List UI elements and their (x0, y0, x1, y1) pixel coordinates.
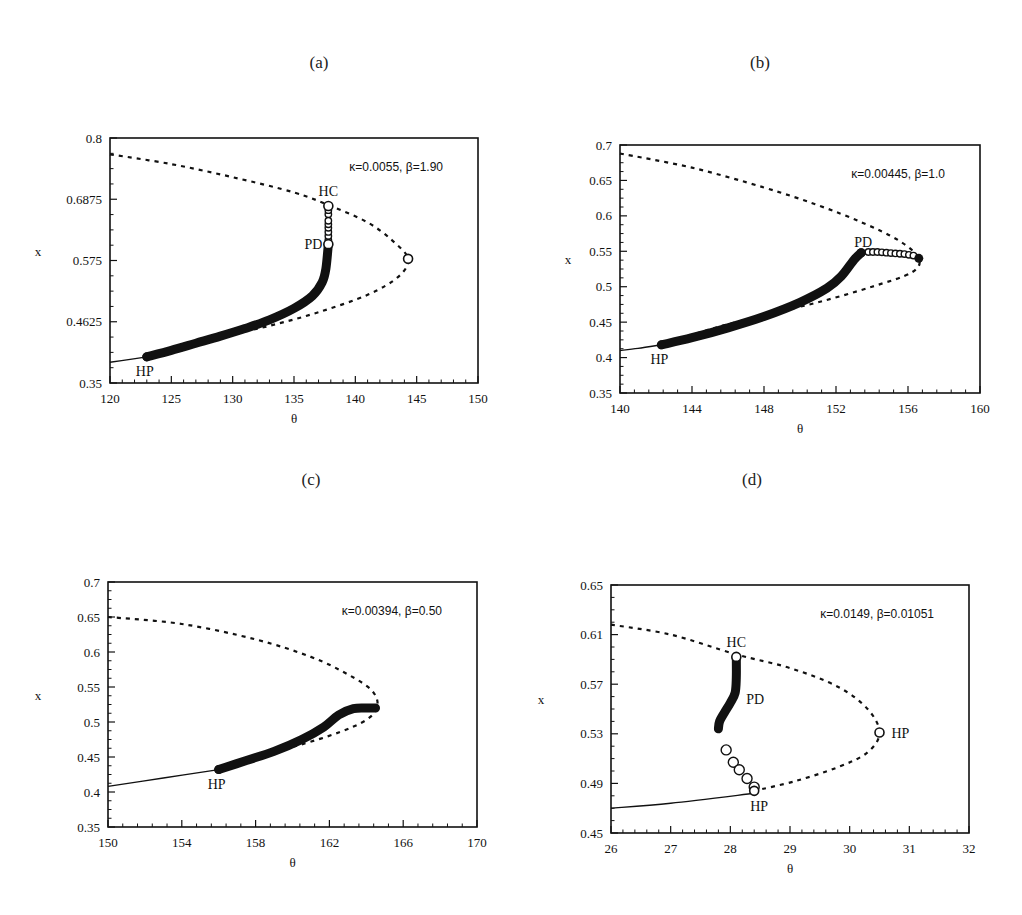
x-tick-label: 32 (963, 841, 976, 856)
bifurcation-point-marker (750, 786, 759, 795)
bifurcation-point-marker (142, 352, 151, 361)
x-tick-label: 145 (407, 391, 427, 406)
stable-branch-line (108, 770, 219, 787)
y-tick-label: 0.4 (84, 785, 101, 800)
x-tick-label: 170 (467, 835, 487, 850)
x-tick-label: 120 (100, 391, 120, 406)
bifurcation-point-marker (404, 254, 413, 263)
bifurcation-point-marker (324, 202, 333, 211)
bifurcation-point-marker (875, 728, 884, 737)
bifurcation-label-pd: PD (854, 235, 872, 250)
x-tick-label: 158 (246, 835, 266, 850)
x-tick-label: 160 (970, 401, 990, 416)
x-tick-label: 166 (393, 835, 413, 850)
bifurcation-label-hp: HP (136, 364, 154, 379)
y-tick-label: 0.5 (84, 715, 100, 730)
bifurcation-point-marker (324, 240, 333, 249)
plot-frame (110, 138, 478, 383)
x-tick-label: 162 (320, 835, 340, 850)
y-tick-label: 0.8 (86, 131, 102, 146)
periodic-orbit-open-marker (325, 218, 331, 224)
plot-frame (620, 145, 980, 393)
y-tick-label: 0.65 (77, 610, 100, 625)
y-tick-label: 0.35 (589, 386, 612, 401)
stable-branch-line (110, 357, 147, 362)
y-tick-label: 0.65 (589, 173, 612, 188)
y-tick-label: 0.6875 (66, 192, 102, 207)
bifurcation-label-pd: PD (746, 692, 764, 707)
y-tick-label: 0.61 (580, 627, 603, 642)
y-axis-label: x (35, 244, 42, 259)
y-tick-label: 0.6 (596, 208, 613, 223)
x-axis-label: θ (291, 411, 297, 426)
periodic-branch-filled (219, 708, 376, 770)
y-tick-label: 0.4 (596, 350, 613, 365)
y-tick-label: 0.575 (73, 253, 102, 268)
periodic-orbit-open-marker (734, 765, 744, 775)
x-tick-label: 29 (784, 841, 797, 856)
x-tick-label: 150 (98, 835, 118, 850)
parameter-annotation: κ=0.0055, β=1.90 (349, 160, 443, 174)
y-tick-label: 0.5 (596, 279, 612, 294)
bifurcation-point-marker (657, 340, 666, 349)
y-axis-label: x (35, 688, 42, 703)
x-tick-label: 150 (468, 391, 488, 406)
chart-panel-a: 1201251301351401451500.350.46250.5750.68… (35, 131, 488, 427)
y-tick-label: 0.55 (589, 244, 612, 259)
x-tick-label: 28 (724, 841, 737, 856)
periodic-branch-filled (147, 244, 329, 357)
x-tick-label: 135 (284, 391, 304, 406)
y-tick-label: 0.35 (79, 376, 102, 391)
chart-panel-c: 1501541581621661700.350.40.450.50.550.60… (35, 575, 487, 871)
x-axis-label: θ (797, 421, 803, 436)
bifurcation-label-hp: HP (650, 352, 668, 367)
unstable-branch-line (108, 617, 378, 751)
x-tick-label: 144 (682, 401, 702, 416)
plot-frame (611, 585, 969, 833)
periodic-orbit-open-marker (721, 745, 731, 755)
periodic-branch-filled (718, 657, 736, 729)
x-tick-label: 31 (903, 841, 916, 856)
x-tick-label: 27 (664, 841, 678, 856)
x-tick-label: 130 (223, 391, 243, 406)
periodic-branch-filled (661, 253, 861, 345)
bifurcation-figure: 1201251301351401451500.350.46250.5750.68… (0, 0, 1022, 915)
x-tick-label: 148 (754, 401, 774, 416)
stable-branch-line (611, 793, 754, 808)
x-tick-label: 125 (162, 391, 182, 406)
x-tick-label: 152 (826, 401, 846, 416)
x-tick-label: 156 (898, 401, 918, 416)
y-tick-label: 0.4625 (66, 314, 102, 329)
x-axis-label: θ (289, 855, 295, 870)
y-tick-label: 0.53 (580, 726, 603, 741)
y-tick-label: 0.45 (589, 315, 612, 330)
y-tick-label: 0.45 (77, 750, 100, 765)
bifurcation-point-marker (214, 765, 223, 774)
bifurcation-label-hc: HC (319, 184, 338, 199)
y-tick-label: 0.45 (580, 826, 603, 841)
y-tick-label: 0.57 (580, 677, 603, 692)
stable-branch-line (620, 345, 661, 351)
x-tick-label: 140 (610, 401, 630, 416)
x-tick-label: 30 (843, 841, 856, 856)
bifurcation-point-marker (914, 254, 923, 263)
y-tick-label: 0.65 (580, 578, 603, 593)
x-tick-label: 154 (172, 835, 192, 850)
chart-panel-d: 262728293031320.450.490.530.570.610.65θx… (538, 578, 976, 877)
bifurcation-point-marker (732, 652, 741, 661)
y-axis-label: x (565, 252, 572, 267)
bifurcation-label-hc: HC (727, 635, 746, 650)
x-tick-label: 26 (605, 841, 619, 856)
bifurcation-label-pd: PD (304, 237, 322, 252)
y-axis-label: x (538, 692, 545, 707)
y-tick-label: 0.49 (580, 776, 603, 791)
x-tick-label: 140 (346, 391, 366, 406)
bifurcation-label-hp: HP (750, 799, 768, 814)
parameter-annotation: κ=0.0149, β=0.01051 (820, 607, 934, 621)
bifurcation-label-hp: HP (892, 726, 910, 741)
y-tick-label: 0.35 (77, 820, 100, 835)
parameter-annotation: κ=0.00394, β=0.50 (342, 604, 443, 618)
y-tick-label: 0.6 (84, 645, 101, 660)
y-tick-label: 0.55 (77, 680, 100, 695)
periodic-orbit-open-marker (742, 773, 752, 783)
